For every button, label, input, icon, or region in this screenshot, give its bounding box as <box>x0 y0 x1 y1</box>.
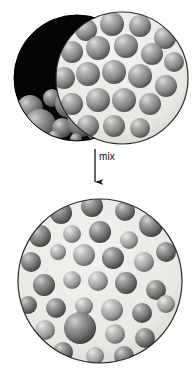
mixed-particle-sample <box>18 195 182 366</box>
mix-arrow-label: mix <box>99 151 115 163</box>
mixing-figure <box>0 0 195 380</box>
